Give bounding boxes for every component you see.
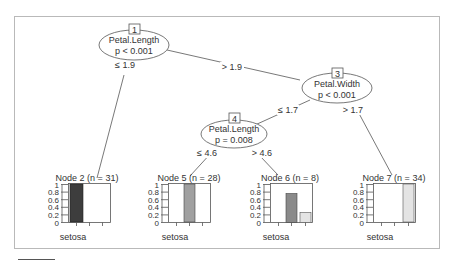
p-value: p < 0.001 bbox=[318, 90, 356, 100]
split-variable: Petal.Width bbox=[314, 79, 360, 89]
bar-setosa bbox=[70, 184, 83, 222]
bar-virginica bbox=[403, 184, 414, 222]
terminal-title: Node 6 (n = 8) bbox=[261, 173, 319, 183]
node-id: 1 bbox=[132, 25, 137, 35]
edge-label-1-3: > 1.9 bbox=[222, 62, 242, 72]
p-value: p < 0.001 bbox=[115, 46, 153, 56]
terminal-title: Node 2 (n = 31) bbox=[56, 173, 119, 183]
p-value: p = 0.008 bbox=[215, 135, 253, 145]
bar-versicolor bbox=[184, 184, 195, 222]
x-label: setosa bbox=[60, 232, 87, 242]
x-label: setosa bbox=[162, 232, 189, 242]
node-id: 3 bbox=[335, 69, 340, 79]
edge-label-3-7: > 1.7 bbox=[343, 105, 363, 115]
edge-label-3-4: ≤ 1.7 bbox=[278, 105, 298, 115]
edge-label-4-5: ≤ 4.6 bbox=[197, 148, 217, 158]
svg-text:1: 1 bbox=[360, 181, 365, 190]
edge-label-1-2: ≤ 1.9 bbox=[115, 60, 135, 70]
tree-plot: ≤ 1.9 > 1.9 ≤ 1.7 > 1.7 ≤ 4.6 > 4.6 1 Pe… bbox=[0, 0, 455, 264]
bar-virginica bbox=[300, 213, 311, 223]
node-id: 4 bbox=[232, 114, 237, 124]
terminal-title: Node 7 (n = 34) bbox=[363, 173, 426, 183]
split-variable: Petal.Length bbox=[109, 35, 160, 45]
bar-versicolor bbox=[286, 194, 297, 223]
edge-label-4-6: > 4.6 bbox=[252, 148, 272, 158]
svg-text:1: 1 bbox=[257, 181, 262, 190]
split-variable: Petal.Length bbox=[209, 124, 260, 134]
svg-text:1: 1 bbox=[155, 181, 160, 190]
x-label: setosa bbox=[263, 232, 290, 242]
x-label: setosa bbox=[367, 232, 394, 242]
svg-text:1: 1 bbox=[55, 181, 60, 190]
terminal-title: Node 5 (n = 28) bbox=[158, 173, 221, 183]
